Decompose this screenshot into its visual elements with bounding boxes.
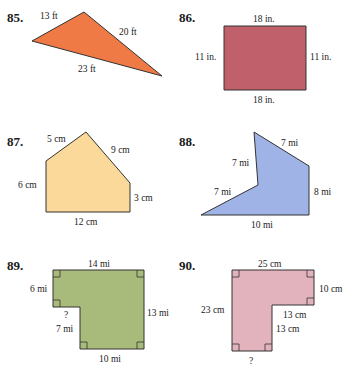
side-label: 10 mi bbox=[99, 355, 121, 365]
side-label: 23 ft bbox=[78, 65, 96, 75]
side-label: 14 mi bbox=[88, 260, 110, 270]
side-label: 10 mi bbox=[251, 221, 273, 231]
side-label-top: 18 in. bbox=[253, 15, 275, 25]
side-label: 13 ft bbox=[40, 12, 58, 22]
problem-number-88: 88. bbox=[179, 134, 195, 150]
side-label: 6 mi bbox=[30, 285, 47, 295]
rectangle-figure-86 bbox=[224, 26, 306, 90]
side-label: 9 cm bbox=[111, 146, 130, 156]
triangle-figure-85 bbox=[32, 12, 162, 76]
problem-number-90: 90. bbox=[179, 258, 195, 274]
problem-number-89: 89. bbox=[7, 258, 23, 274]
side-label: 25 cm bbox=[258, 260, 281, 270]
unknown-side-label: ? bbox=[249, 357, 253, 367]
side-label: 7 mi bbox=[214, 188, 231, 198]
side-label-right: 11 in. bbox=[310, 53, 331, 63]
side-label: 6 cm bbox=[18, 181, 37, 191]
side-label: 7 mi bbox=[56, 325, 73, 335]
side-label: 7 mi bbox=[232, 159, 249, 169]
side-label: 20 ft bbox=[119, 28, 137, 38]
side-label: 13 cm bbox=[283, 311, 306, 321]
side-label: 13 cm bbox=[276, 325, 299, 335]
problem-number-85: 85. bbox=[7, 10, 23, 26]
side-label: 8 mi bbox=[314, 188, 331, 198]
side-label: 5 cm bbox=[47, 135, 66, 145]
side-label-left: 11 in. bbox=[195, 53, 216, 63]
side-label: 3 cm bbox=[134, 194, 153, 204]
side-label-bottom: 18 in. bbox=[253, 96, 275, 106]
side-label: 23 cm bbox=[201, 306, 224, 316]
side-label: 7 mi bbox=[281, 139, 298, 149]
unknown-side-label: ? bbox=[64, 311, 68, 321]
side-label: 13 mi bbox=[147, 309, 169, 319]
side-label: 10 cm bbox=[319, 285, 342, 295]
side-label: 12 cm bbox=[74, 218, 97, 228]
problem-number-86: 86. bbox=[179, 10, 195, 26]
problem-number-87: 87. bbox=[7, 134, 23, 150]
